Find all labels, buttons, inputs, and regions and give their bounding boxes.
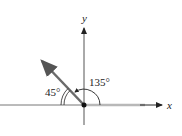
angle-diagram: y x 135° 45° [0, 0, 182, 136]
vector-arrow [42, 61, 84, 105]
y-axis-label: y [81, 12, 87, 24]
x-axis-label: x [166, 99, 172, 111]
origin-point [82, 103, 87, 108]
angle-arc-135 [75, 89, 100, 105]
angle-label-45: 45° [45, 86, 60, 98]
diagram-canvas: y x 135° 45° [0, 0, 182, 136]
angle-label-135: 135° [89, 76, 110, 88]
